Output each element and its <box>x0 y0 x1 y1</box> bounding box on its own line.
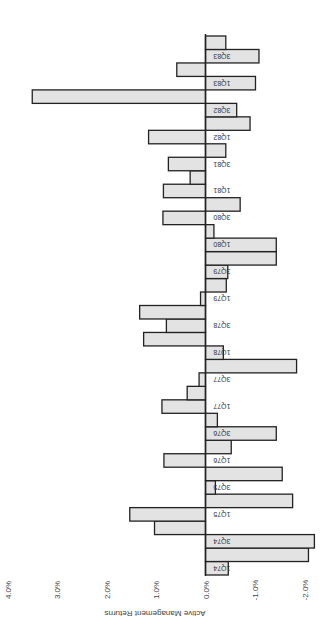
quarter-label: 3Q83 <box>213 52 230 60</box>
quarter-label: 3Q74 <box>213 537 230 545</box>
bar-4Q75 <box>206 467 283 480</box>
bar-2Q77 <box>187 386 205 399</box>
bar-4Q83 <box>206 36 226 49</box>
bar-4Q78 <box>140 306 206 319</box>
tick-label: 1.0% <box>152 581 161 599</box>
bar-3Q81 <box>168 157 205 170</box>
bar-2Q75 <box>206 494 293 507</box>
quarter-label: 3Q81 <box>213 160 230 168</box>
tick-label: 0.0% <box>202 581 211 599</box>
tick-label: 4.0% <box>4 581 13 599</box>
quarter-label: 3Q78 <box>213 321 230 329</box>
quarter-label: 1Q75 <box>213 510 230 518</box>
bar-4Q77 <box>206 359 297 372</box>
bar-4Q82 <box>32 90 205 103</box>
quarter-label: 1Q82 <box>213 133 230 141</box>
quarter-label: 1Q74 <box>213 564 230 572</box>
bar-4Q81 <box>206 144 226 157</box>
quarter-label: 3Q75 <box>213 483 230 491</box>
bar-2Q74 <box>206 548 309 561</box>
bar-3Q77 <box>199 373 205 386</box>
quarter-label: 1Q76 <box>213 456 230 464</box>
bar-4Q76 <box>206 413 218 426</box>
bar-2Q76 <box>206 440 232 453</box>
quarter-label: 3Q79 <box>213 267 230 275</box>
quarter-label: 1Q79 <box>213 294 230 302</box>
tick-label: -2.0% <box>301 580 310 601</box>
active-returns-chart: 1Q743Q741Q753Q751Q763Q761Q773Q771Q783Q78… <box>0 0 336 640</box>
quarter-label: 3Q77 <box>213 375 230 383</box>
bar-3Q78 <box>166 319 205 332</box>
axis-title: Active Management Returns <box>105 609 206 618</box>
quarter-label: 1Q78 <box>213 348 230 356</box>
quarter-label: 1Q77 <box>213 402 230 410</box>
bar-2Q80 <box>206 225 214 238</box>
bar-2Q78 <box>144 332 206 345</box>
bar-1Q81 <box>163 184 205 197</box>
bar-series <box>32 36 314 575</box>
bar-2Q83 <box>177 63 206 76</box>
bar-3Q80 <box>163 211 206 224</box>
bar-4Q74 <box>155 521 206 534</box>
bar-1Q76 <box>164 454 206 467</box>
quarter-label: 1Q83 <box>213 79 230 87</box>
tick-label: -1.0% <box>251 580 260 601</box>
bar-2Q82 <box>206 117 251 130</box>
quarter-label: 1Q81 <box>213 186 230 194</box>
value-axis-ticks: 4.0%3.0%2.0%1.0%0.0%-1.0%-2.0% <box>4 580 310 601</box>
bar-2Q81 <box>190 171 205 184</box>
quarter-label: 3Q76 <box>213 429 230 437</box>
bar-2Q79 <box>206 279 227 292</box>
tick-label: 3.0% <box>53 581 62 599</box>
bar-1Q82 <box>149 130 206 143</box>
quarter-label: 3Q82 <box>213 106 230 114</box>
bar-1Q75 <box>130 508 206 521</box>
bar-4Q79 <box>206 252 277 265</box>
quarter-label: 3Q80 <box>213 213 230 221</box>
bar-1Q77 <box>162 400 206 413</box>
quarter-label: 1Q80 <box>213 240 230 248</box>
bar-4Q80 <box>206 198 241 211</box>
tick-label: 2.0% <box>103 581 112 599</box>
